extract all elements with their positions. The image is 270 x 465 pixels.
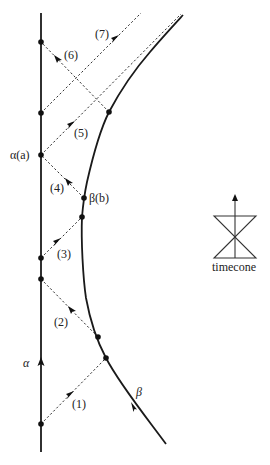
signal-label-7: (7) (95, 27, 109, 41)
arrow-icon (111, 35, 119, 43)
signal-5 (41, 14, 181, 155)
signal-2 (41, 279, 98, 337)
arrow-icon (68, 306, 76, 314)
signal-label-2: (2) (54, 315, 68, 329)
signal-label-1: (1) (72, 397, 86, 411)
event-alpha-a (38, 152, 44, 158)
arrow-icon (65, 178, 73, 186)
worldline-label-beta: β (135, 385, 142, 399)
timecone-label: timecone (212, 260, 256, 274)
worldline-label-alpha: α (23, 356, 30, 370)
signal-label-5: (5) (74, 126, 88, 140)
timecone-icon (214, 194, 256, 258)
signal-7 (41, 13, 141, 113)
signal-1 (41, 358, 106, 424)
alpha-worldline (38, 13, 45, 452)
beta-worldline (82, 15, 183, 444)
event-label-beta-b: β(b) (89, 191, 109, 205)
event-label-alpha-a: α(a) (10, 148, 30, 162)
spacetime-diagram: (7) (6) (5) α(a) (4) β(b) (3) (2) α (1) … (0, 0, 270, 465)
arrow-icon (54, 55, 62, 63)
signal-label-6: (6) (64, 48, 78, 62)
signal-label-4: (4) (50, 181, 64, 195)
signal-label-3: (3) (57, 247, 71, 261)
event-beta-b (81, 195, 87, 201)
